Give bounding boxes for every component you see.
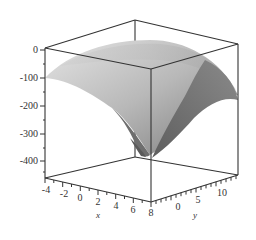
- z-tick-label: -100: [20, 72, 38, 83]
- x-tick-label: -2: [60, 188, 68, 199]
- y-tick-label: 0: [176, 201, 181, 212]
- z-tick-label: -300: [20, 128, 38, 139]
- y-tick-label: 5: [196, 194, 201, 205]
- z-tick-label: -400: [20, 155, 38, 166]
- surface-plot: 0 -100 -200 -300 -400 -4 -2 0 2 4 6 8 x: [0, 0, 256, 240]
- x-tick-label: -4: [42, 184, 50, 195]
- z-axis: 0 -100 -200 -300 -400: [20, 44, 45, 172]
- x-tick-label: 0: [78, 192, 83, 203]
- x-tick-label: 6: [131, 204, 136, 215]
- x-tick-label: 4: [114, 200, 119, 211]
- x-tick-label: 8: [149, 207, 154, 218]
- z-tick-label: 0: [33, 44, 38, 55]
- y-tick-label: 10: [217, 187, 227, 198]
- surface: [45, 40, 238, 158]
- x-tick-label: 2: [96, 196, 101, 207]
- y-axis-label: y: [192, 210, 197, 220]
- z-tick-label: -200: [20, 100, 38, 111]
- y-axis: 0 5 10 y: [156, 176, 236, 220]
- x-axis-label: x: [95, 210, 100, 220]
